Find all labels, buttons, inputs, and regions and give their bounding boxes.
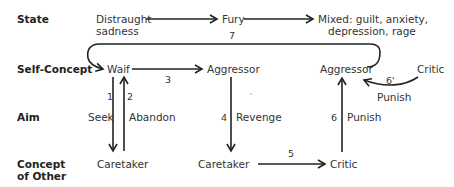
arrow-7-loop bbox=[88, 44, 380, 69]
stray-dot bbox=[250, 93, 251, 94]
arrow-6prime-punish bbox=[364, 77, 418, 85]
diagram-arrows bbox=[0, 0, 454, 187]
